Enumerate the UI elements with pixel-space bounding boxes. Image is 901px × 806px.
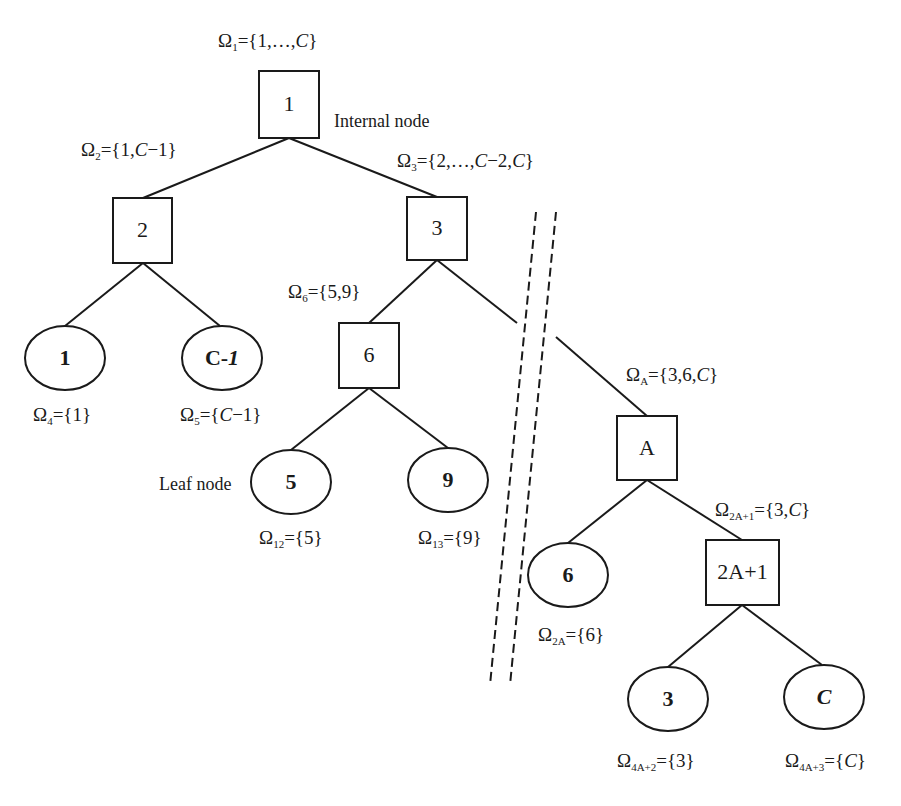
set-label-omega4A3: Ω4A+3={C} [785,751,866,773]
leaf-label-C-1-italic: 1 [228,345,239,370]
node-label-6: 6 [339,344,399,366]
internal-node-annotation: Internal node [334,111,429,132]
set-label-omega2A: Ω2A={6} [538,625,604,647]
ellipsis-break [490,212,556,685]
leaf-label-C-1-main: C- [205,345,228,370]
leaf-label-C: C [784,686,864,708]
set-label-omega1: Ω1={1,…,C} [218,31,317,53]
set-label-omega12: Ω12={5} [259,528,323,550]
set-label-omega3: Ω3={2,…,C−2,C} [397,151,534,173]
leaf-label-9: 9 [408,469,488,491]
edge-3-6 [369,260,437,323]
edge-2A1-leafC [742,605,822,665]
node-label-3: 3 [407,217,467,239]
edge-3-break [437,260,517,323]
tree-diagram [0,0,901,806]
set-label-omega2A1: Ω2A+1={3,C} [715,500,810,522]
leaf-label-5: 5 [251,471,331,493]
edge-2-leaf1 [65,263,143,326]
edge-2-leafC-1 [143,263,220,326]
node-label-2: 2 [113,219,172,241]
leaf-node-annotation: Leaf node [159,474,231,495]
node-label-A: A [617,437,677,459]
leaf-label-6: 6 [528,564,608,586]
set-label-omega13: Ω13={9} [418,528,482,550]
set-label-omega2: Ω2={1,C−1} [81,140,177,162]
set-label-omega5: Ω5={C−1} [180,405,262,427]
leaf-label-3: 3 [628,688,708,710]
dashed-line-right [510,212,556,685]
set-label-omega4: Ω4={1} [33,405,91,427]
set-label-omega6: Ω6={5,9} [288,282,360,304]
edge-2A1-leaf3 [668,605,742,667]
set-label-omega4A2: Ω4A+2={3} [617,751,695,773]
edge-A-leaf6 [568,480,647,543]
dashed-line-left [490,212,536,685]
edge-6-leaf9 [369,388,448,448]
node-label-1: 1 [259,93,319,115]
node-label-2A1: 2A+1 [706,561,779,583]
leaf-label-1: 1 [25,347,105,369]
leaf-label-C-1: C-1 [182,347,262,369]
set-label-omegaA: ΩA={3,6,C} [626,365,718,387]
edge-6-leaf5 [291,388,369,450]
